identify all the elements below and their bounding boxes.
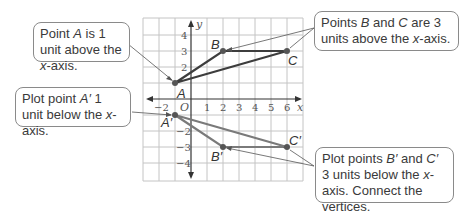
x-tick-1: 1 [204, 102, 210, 113]
y-tick-neg3: −3 [176, 142, 191, 153]
x-tick-5: 5 [268, 102, 274, 113]
x-axis-label: x [297, 101, 304, 114]
callout-points-bc-prime: Plot points B′ and C′ 3 units below the … [315, 147, 454, 203]
x-tick-neg2: −2 [154, 102, 169, 113]
y-axis-label: y [195, 18, 203, 31]
x-tick-3: 3 [236, 102, 242, 113]
callout-point-a: Point A is 1 unit above the x-axis. [33, 22, 130, 62]
label-b-prime: B′ [211, 149, 223, 164]
label-b: B [211, 37, 220, 52]
x-tick-6: 6 [284, 102, 290, 113]
y-tick-3: 3 [181, 46, 187, 57]
label-c-prime: C′ [289, 133, 301, 148]
x-tick-4: 4 [252, 102, 258, 113]
point-a-prime [172, 112, 178, 118]
callout-point-a-prime: Plot point A′ 1 unit below the x-axis. [15, 87, 131, 127]
y-tick-neg4: −4 [176, 158, 191, 169]
y-axis-down-arrow [188, 172, 194, 179]
point-b [220, 48, 226, 54]
label-a-prime: A′ [160, 115, 173, 130]
origin-label: O [180, 101, 189, 114]
x-axis-left-arrow [146, 96, 153, 102]
label-c: C [288, 53, 298, 68]
y-tick-4: 4 [181, 30, 187, 41]
y-tick-neg2: −2 [176, 126, 191, 137]
y-tick-2: 2 [181, 62, 187, 73]
callout-points-bc: Points B and C are 3 units above the x-a… [314, 11, 459, 51]
y-axis-up-arrow [188, 20, 194, 27]
label-a: A [176, 86, 186, 101]
x-tick-2: 2 [220, 102, 226, 113]
